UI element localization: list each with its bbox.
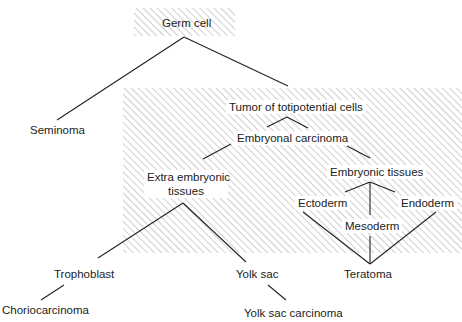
node-mesoderm: Mesoderm — [342, 219, 402, 233]
node-endoderm: Endoderm — [398, 196, 457, 210]
node-tumor-totipotential: Tumor of totipotential cells — [226, 100, 366, 114]
node-seminoma: Seminoma — [30, 123, 85, 137]
node-teratoma: Teratoma — [344, 267, 392, 281]
node-yolk-sac: Yolk sac — [236, 267, 278, 281]
node-yolk-sac-carcinoma: Yolk sac carcinoma — [244, 306, 343, 320]
node-ectoderm: Ectoderm — [295, 196, 350, 210]
node-germ-cell: Germ cell — [162, 16, 211, 30]
node-choriocarcinoma: Choriocarcinoma — [2, 303, 89, 317]
node-extra-embryonic-line2: tissues — [147, 184, 225, 198]
node-extra-embryonic-tissues: Extra embryonic tissues — [144, 170, 228, 198]
node-trophoblast: Trophoblast — [54, 267, 114, 281]
node-embryonic-tissues: Embryonic tissues — [327, 165, 426, 179]
node-embryonal-carcinoma: Embryonal carcinoma — [234, 131, 351, 145]
node-extra-embryonic-line1: Extra embryonic — [147, 170, 225, 184]
